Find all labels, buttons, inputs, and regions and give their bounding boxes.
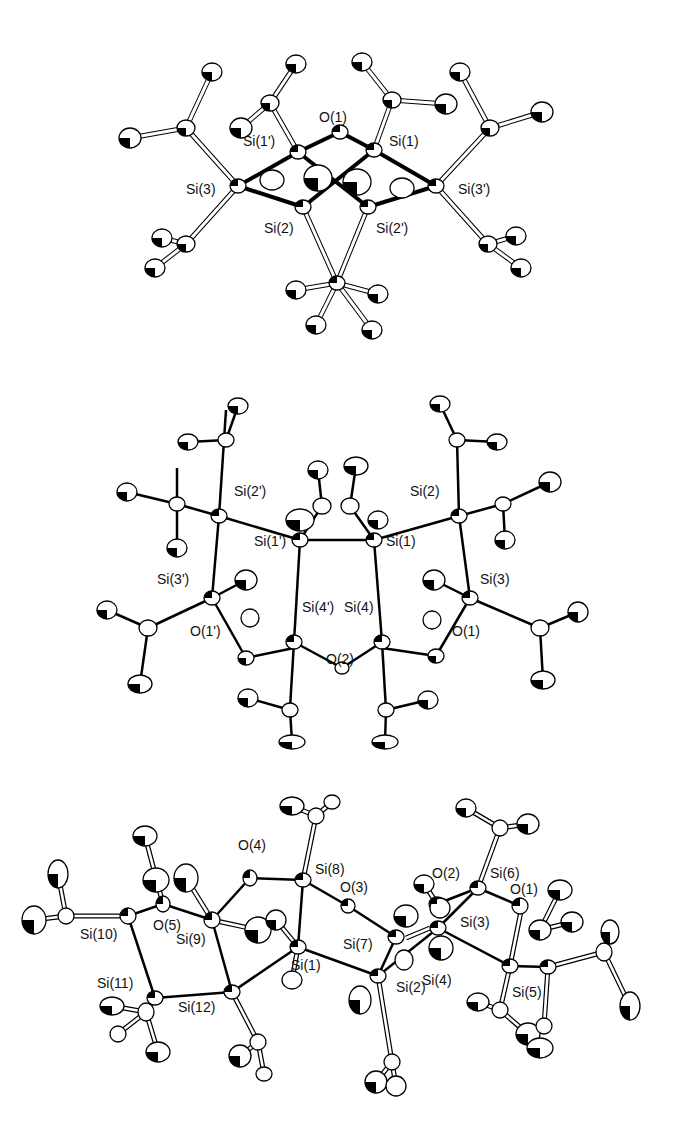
ortep-drawing-bottom (0, 780, 679, 1146)
atom-label: Si(2') (376, 221, 408, 235)
atom-label: O(1) (452, 624, 480, 638)
atom-label: Si(3) (480, 572, 510, 586)
molecule-panel-bottom: O(4) Si(8) O(3) O(2) Si(6) O(1) Si(10) O… (0, 780, 679, 1146)
atom-label: O(2) (326, 652, 354, 666)
atom-label: Si(1) (291, 958, 321, 972)
atom-label: Si(3') (458, 182, 490, 196)
atom-label: Si(11) (97, 976, 133, 990)
atom-label: Si(6) (490, 866, 520, 880)
atom-label: Si(7) (343, 937, 373, 951)
atom-label: O(5) (153, 918, 181, 932)
atom-label: Si(8) (315, 862, 345, 876)
atom-label: Si(1') (254, 534, 286, 548)
atom-label: O(3) (340, 880, 368, 894)
atom-label: O(1) (510, 882, 538, 896)
atom-label: Si(2') (234, 484, 266, 498)
atom-label: Si(12) (178, 1000, 215, 1014)
atom-label: Si(2) (264, 221, 294, 235)
molecule-panel-top: O(1) Si(1') Si(1) Si(3) Si(3') Si(2) Si(… (0, 0, 679, 360)
atom-label: Si(2) (410, 484, 440, 498)
atom-label: O(2) (432, 866, 460, 880)
atom-label: Si(5) (512, 985, 542, 999)
atom-label: Si(4') (302, 600, 334, 614)
atom-label: O(1') (190, 624, 221, 638)
ortep-drawing-top (0, 0, 679, 360)
atom-label: Si(3) (460, 915, 490, 929)
atom-label: O(4) (238, 838, 266, 852)
atom-label: Si(10) (80, 927, 117, 941)
ortep-drawing-middle (0, 380, 679, 760)
atom-label: Si(4) (422, 973, 452, 987)
atom-label: Si(3) (186, 182, 216, 196)
atom-label: Si(4) (344, 600, 374, 614)
atom-label: Si(1') (243, 134, 275, 148)
atom-label: Si(1) (386, 534, 416, 548)
atom-label: Si(9) (176, 932, 206, 946)
molecule-panel-middle: Si(2') Si(2) Si(1') Si(1) Si(3') Si(3) S… (0, 380, 679, 760)
atom-label: O(1) (319, 110, 347, 124)
atom-label: Si(1) (389, 134, 419, 148)
atom-label: Si(3') (157, 572, 189, 586)
